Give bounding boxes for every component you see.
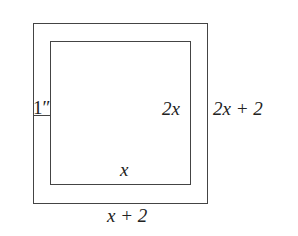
- inner-height-label: 2x: [162, 99, 180, 118]
- inner-width-label: x: [120, 160, 128, 179]
- outer-height-label: 2x + 2: [213, 99, 263, 118]
- outer-width-label: x + 2: [107, 206, 147, 225]
- border-width-label: 1″: [33, 98, 50, 117]
